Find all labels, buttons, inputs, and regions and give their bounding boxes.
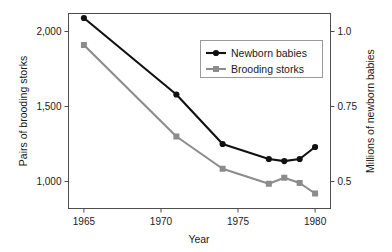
data-point-marker [281,175,287,181]
left-tick-label: 1,000 [36,176,61,187]
left-tick-label: 1,500 [36,101,61,112]
data-point-marker [81,42,87,48]
data-point-marker [312,191,318,197]
chart-legend[interactable]: Newborn babiesBrooding storks [201,41,323,78]
data-point-marker [173,91,179,97]
data-point-marker [297,180,303,186]
data-point-marker [266,181,272,187]
data-point-marker [266,156,272,162]
storks-babies-line-chart: 1,0001,5002,000 0.50.751.0 1965197019751… [0,0,392,252]
left-axis-title: Pairs of brooding storks [17,56,29,166]
right-axis-title: Millions of newborn babies [364,49,376,173]
right-tick-label: 0.5 [338,176,352,187]
data-point-marker [281,158,287,164]
right-tick-label: 0.75 [338,101,358,112]
x-tick-label: 1965 [73,216,96,227]
legend-swatch-marker [213,66,219,72]
x-tick-label: 1980 [304,216,327,227]
chart-figure: 1,0001,5002,000 0.50.751.0 1965197019751… [0,0,392,252]
x-tick-label: 1975 [227,216,250,227]
left-tick-label: 2,000 [36,26,61,37]
legend-swatch-marker [213,50,219,56]
chart-background [0,0,392,252]
legend-item-label: Newborn babies [231,47,307,59]
right-tick-label: 1.0 [338,26,352,37]
x-axis-title: Year [188,233,210,245]
data-point-marker [297,156,303,162]
data-point-marker [81,15,87,21]
data-point-marker [312,144,318,150]
data-point-marker [220,141,226,147]
x-tick-label: 1970 [150,216,173,227]
legend-item-label: Brooding storks [231,63,304,75]
data-point-marker [173,134,179,140]
data-point-marker [220,166,226,172]
